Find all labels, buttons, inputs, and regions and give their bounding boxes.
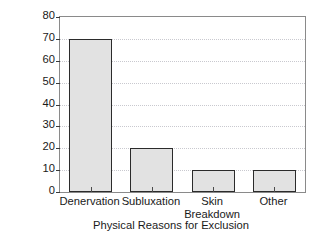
x-axis-category-label-line: Denervation <box>59 195 120 208</box>
x-axis-tick <box>91 187 92 192</box>
x-axis-tick <box>213 187 214 192</box>
plot-area <box>60 17 305 192</box>
y-axis-tick <box>56 105 60 106</box>
y-axis-tick <box>56 192 60 193</box>
y-axis-tick <box>56 148 60 149</box>
y-axis-tick-labels: 01020304050607080 <box>31 16 55 193</box>
y-axis-tick <box>56 39 60 40</box>
y-axis-tick-label: 0 <box>31 185 55 196</box>
y-axis-tick-label: 50 <box>31 76 55 87</box>
x-axis-category-label-line: Other <box>243 195 304 208</box>
y-axis-tick-label: 60 <box>31 54 55 65</box>
y-axis-tick <box>56 170 60 171</box>
y-axis-tick-label: 10 <box>31 163 55 174</box>
x-axis-category-label: Subluxation <box>120 195 181 208</box>
x-axis-category-label: SkinBreakdown <box>182 195 243 221</box>
x-axis-category-label-line: Skin <box>182 195 243 208</box>
plot-frame <box>59 16 306 193</box>
y-axis-tick <box>56 17 60 18</box>
y-axis-tick-label: 40 <box>31 98 55 109</box>
y-axis-tick-label: 80 <box>31 10 55 21</box>
x-axis-title: Physical Reasons for Exclusion <box>40 219 302 232</box>
y-axis-tick-label: 70 <box>31 32 55 43</box>
y-axis-tick-label: 20 <box>31 141 55 152</box>
y-axis-tick <box>56 83 60 84</box>
bar <box>130 148 173 192</box>
x-axis-tick <box>274 187 275 192</box>
y-axis-tick <box>56 61 60 62</box>
x-axis-tick <box>152 187 153 192</box>
x-axis-category-label-line: Subluxation <box>120 195 181 208</box>
y-axis-tick-label: 30 <box>31 119 55 130</box>
x-axis-category-label: Other <box>243 195 304 208</box>
bar <box>69 39 112 192</box>
bar-chart-figure: % Group Failing Physical Exam 0102030405… <box>0 0 321 238</box>
x-axis-category-label: Denervation <box>59 195 120 208</box>
y-axis-tick <box>56 126 60 127</box>
